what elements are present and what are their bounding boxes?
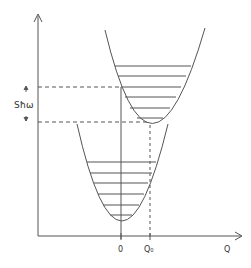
x-axis-label: Q — [224, 245, 230, 254]
gap-arrow-up-icon — [24, 86, 28, 90]
gap-arrow-down-icon — [24, 117, 28, 121]
energy-gap-label: Sħω — [14, 100, 34, 110]
upper-vibrational-levels — [115, 66, 191, 118]
tick-label-zero: 0 — [118, 245, 123, 254]
tick-label-q0: Q₀ — [144, 245, 154, 254]
configuration-coordinate-diagram: Sħω 0 Q₀ Q — [0, 0, 251, 268]
